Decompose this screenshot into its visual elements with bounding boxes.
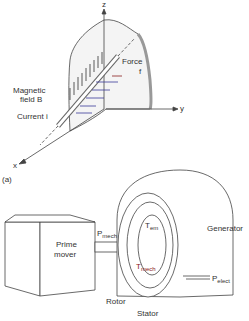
z-axis-label: z xyxy=(102,0,106,9)
t-mech-label: Tmech xyxy=(136,262,156,274)
y-axis-label: y xyxy=(180,104,184,113)
prime-mover-label-2: mover xyxy=(54,250,76,259)
stator-label: Stator xyxy=(137,309,158,318)
prime-mover-label-1: Prime xyxy=(56,240,77,249)
figure-b-drawing xyxy=(5,170,233,297)
x-axis-label: x xyxy=(13,161,17,170)
p-mech-label: Pmech xyxy=(97,229,117,241)
force-label: Force xyxy=(122,57,142,66)
diagram-canvas xyxy=(0,0,249,321)
magnetic-field-label-1: Magnetic xyxy=(13,86,45,95)
force-symbol-label: f xyxy=(139,67,141,76)
magnetic-field-label-2: field B xyxy=(20,95,42,104)
generator-label: Generator xyxy=(207,224,243,233)
figure-a-caption: (a) xyxy=(2,175,12,184)
p-elect-label: Pelect xyxy=(212,274,230,286)
t-em-label: Tem xyxy=(145,221,158,233)
current-label: Current i xyxy=(17,112,48,121)
rotor-label: Rotor xyxy=(106,297,126,306)
